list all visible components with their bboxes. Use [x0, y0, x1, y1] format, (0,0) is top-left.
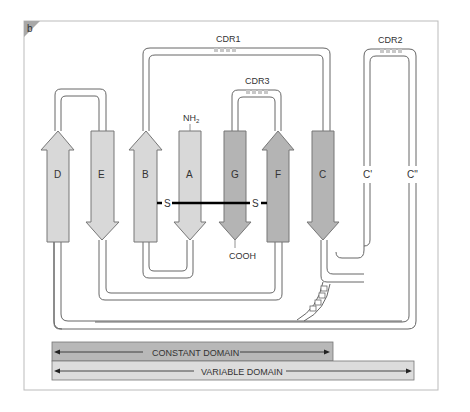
cdr2-label: CDR2: [378, 35, 403, 45]
strand-label-F: F: [275, 169, 281, 180]
panel-label: b: [27, 23, 33, 34]
strand-label-C-double-prime: C": [407, 169, 418, 180]
strand-C: [307, 131, 339, 240]
immunoglobulin-domain-diagram: b: [0, 0, 470, 412]
strand-label-E: E: [98, 169, 105, 180]
cdr1-label: CDR1: [216, 34, 241, 44]
constant-domain-label: CONSTANT DOMAIN: [152, 348, 239, 358]
strand-label-A: A: [186, 169, 193, 180]
c-terminus-label: COOH: [229, 251, 256, 261]
diagram-canvas: b: [0, 0, 470, 412]
strand-label-C-prime: C': [363, 169, 372, 180]
strand-B: [129, 131, 162, 242]
strand-label-D: D: [54, 169, 61, 180]
strand-A: [174, 131, 206, 240]
strand-label-C: C: [319, 169, 326, 180]
strand-label-G: G: [231, 169, 239, 180]
strand-E: [86, 131, 119, 240]
strand-G: [219, 131, 251, 240]
sulfur-right: S: [252, 198, 259, 209]
variable-domain-label: VARIABLE DOMAIN: [201, 367, 283, 377]
sulfur-left: S: [164, 198, 171, 209]
cdr3-label: CDR3: [245, 76, 270, 86]
strand-F: [262, 131, 294, 242]
strand-label-B: B: [142, 169, 149, 180]
